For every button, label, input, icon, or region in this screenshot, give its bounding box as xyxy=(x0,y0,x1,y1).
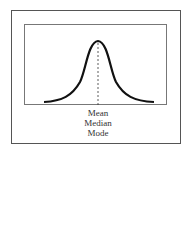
label-median: Median xyxy=(68,118,128,128)
label-mode: Mode xyxy=(68,128,128,138)
label-mean: Mean xyxy=(68,108,128,118)
